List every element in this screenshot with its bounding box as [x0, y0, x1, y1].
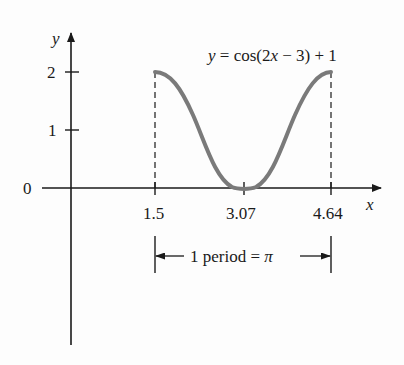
x-tick-label-2: 3.07	[226, 205, 256, 222]
y-tick-label-1: 1	[48, 122, 57, 139]
chart-figure: y x 2 1 0 1.5 3.07 4.64 y = cos(2x − 3) …	[0, 0, 404, 365]
cosine-curve	[155, 72, 331, 189]
y-tick-label-0: 0	[23, 180, 32, 197]
x-tick-label-3: 4.64	[313, 205, 343, 222]
x-axis-label: x	[366, 196, 374, 213]
plot-canvas	[0, 0, 404, 365]
y-tick-label-2: 2	[47, 64, 56, 81]
y-axis-label: y	[52, 30, 60, 47]
equation-label: y = cos(2x − 3) + 1	[208, 47, 337, 64]
period-label: 1 period = π	[190, 248, 273, 265]
x-tick-label-1: 1.5	[143, 205, 164, 222]
